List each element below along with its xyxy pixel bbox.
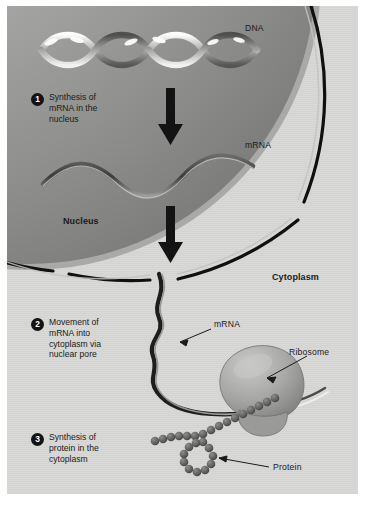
step-3-number: 3 <box>31 433 44 446</box>
label-mrna-cytoplasm: mRNA <box>214 319 240 330</box>
step-2: 2 Movement of mRNA into cytoplasm via nu… <box>31 317 149 360</box>
step-3-text: Synthesis of protein in the cytoplasm <box>49 432 99 464</box>
label-dna: DNA <box>245 23 264 34</box>
label-protein: Protein <box>273 462 302 473</box>
label-nucleus: Nucleus <box>63 216 99 227</box>
step-3: 3 Synthesis of protein in the cytoplasm <box>31 432 143 464</box>
label-mrna-nucleus: mRNA <box>245 140 271 151</box>
label-ribosome: Ribosome <box>289 347 329 358</box>
step-2-text: Movement of mRNA into cytoplasm via nucl… <box>49 317 101 360</box>
label-cytoplasm: Cytoplasm <box>272 272 319 283</box>
step-1-number: 1 <box>31 93 44 106</box>
ribosome-shape <box>220 346 304 436</box>
illustration-panel: DNA mRNA Nucleus Cytoplasm mRNA Ribosome… <box>7 6 358 494</box>
step-1-text: Synthesis of mRNA in the nucleus <box>49 92 97 124</box>
step-2-number: 2 <box>31 318 44 331</box>
step-1: 1 Synthesis of mRNA in the nucleus <box>31 92 141 124</box>
nucleus-shape <box>7 6 321 270</box>
figure-root: DNA mRNA Nucleus Cytoplasm mRNA Ribosome… <box>0 0 365 506</box>
diagram-canvas <box>7 6 358 494</box>
